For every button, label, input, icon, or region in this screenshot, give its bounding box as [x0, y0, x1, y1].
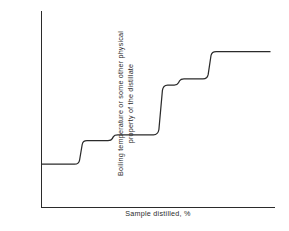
distillation-curve-figure: Boiling temperature or some other physic… [0, 0, 289, 231]
y-axis-label: Boiling temperature or some other physic… [0, 0, 41, 207]
y-axis-label-line-2: property of the distillate [27, 0, 234, 207]
x-axis-label: Sample distilled, % [41, 209, 275, 218]
